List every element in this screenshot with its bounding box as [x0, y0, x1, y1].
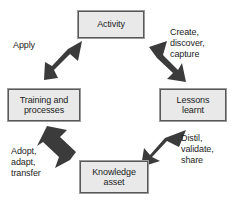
node-training-and-processes[interactable]: Training and processes — [8, 89, 80, 121]
node-lessons-learnt[interactable]: Lessons learnt — [160, 89, 226, 121]
edge-label-adopt-adapt-transfer: Adopt, adapt, transfer — [11, 146, 67, 179]
node-activity[interactable]: Activity — [78, 11, 144, 38]
edge-label-distil-validate-share: Distil, validate, share — [181, 133, 233, 166]
knowledge-cycle-diagram: Activity Lessons learnt Knowledge asset … — [0, 0, 235, 209]
edge-label-create-discover-capture: Create, discover, capture — [170, 27, 230, 60]
node-knowledge-asset[interactable]: Knowledge asset — [80, 161, 148, 193]
edge-label-apply: Apply — [13, 40, 57, 51]
